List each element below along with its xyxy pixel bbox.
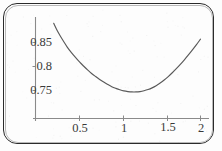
x-tick-label-3: 2: [188, 122, 214, 135]
function-curve: [54, 23, 201, 92]
x-tick-label-0: 0.5: [64, 122, 96, 135]
y-tick-label-2: 0.75: [8, 84, 52, 97]
x-tick-label-1: 1: [110, 122, 138, 135]
figure-container: 0.85 0.8 0.75 0.5 1 1.5 2: [0, 0, 222, 151]
x-tick-label-2: 1.5: [152, 121, 184, 134]
y-tick-label-0: 0.85: [8, 36, 52, 49]
y-tick-label-1: 0.8: [8, 60, 52, 73]
